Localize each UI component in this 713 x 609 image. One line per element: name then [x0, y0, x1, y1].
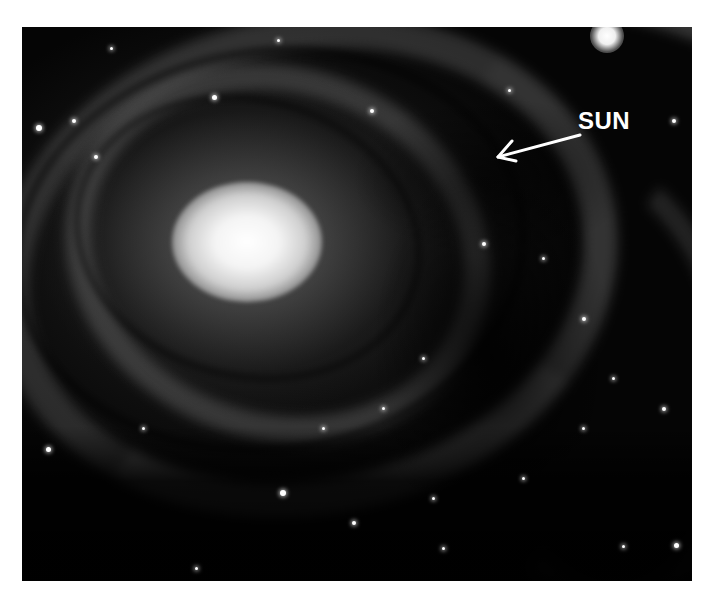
arrow-icon [492, 127, 592, 177]
galaxy-photo: SUN [22, 27, 692, 581]
sun-label: SUN [578, 107, 630, 135]
galaxy-core [172, 182, 322, 302]
